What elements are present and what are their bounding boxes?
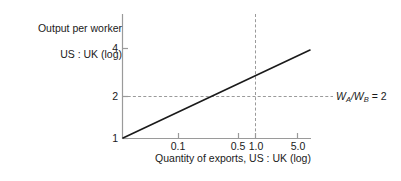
wage-ratio-annotation: WA/WB = 2 [336, 90, 387, 104]
data-line-output-per-worker [123, 50, 310, 138]
x-axis-title: Quantity of exports, US : UK (log) [118, 152, 348, 165]
y-axis-title-line1: Output per worker [38, 22, 122, 34]
annotation-sub1: A [346, 95, 351, 104]
y-tick-label-1: 1 [104, 132, 118, 145]
chart-figure: Output per worker US : UK (log) 4 2 1 0.… [0, 0, 401, 181]
annotation-w1: W [336, 90, 346, 102]
annotation-w2: W [354, 90, 364, 102]
annotation-equals: = 2 [369, 90, 387, 102]
annotation-sub2: B [364, 95, 369, 104]
y-tick-label-4: 4 [104, 42, 118, 55]
y-tick-label-2: 2 [104, 90, 118, 103]
